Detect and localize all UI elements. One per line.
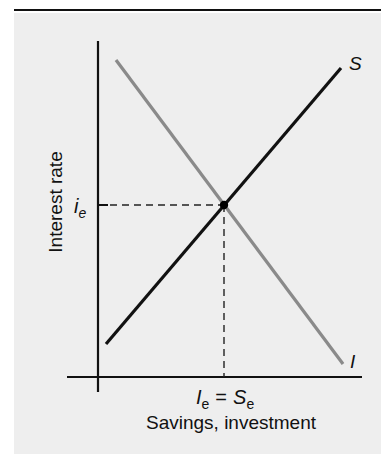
ie-sub: e [78, 205, 86, 221]
y-axis-label: Interest rate [45, 151, 66, 252]
x-axis-label: Savings, investment [146, 412, 317, 433]
savings-investment-diagram: S I ie Interest rate Ie=Se Savings, inve… [0, 0, 381, 454]
Se-main: S [233, 386, 247, 408]
Se-sub: e [246, 396, 254, 412]
Ie-sub: e [202, 396, 210, 412]
equilibrium-point [220, 201, 228, 209]
s-curve-label: S [349, 53, 362, 74]
i-curve-label: I [350, 351, 356, 372]
ie-label: ie [74, 195, 86, 221]
equals-sign: = [215, 386, 227, 408]
equilibrium-quantity-label: Ie=Se [196, 386, 254, 412]
